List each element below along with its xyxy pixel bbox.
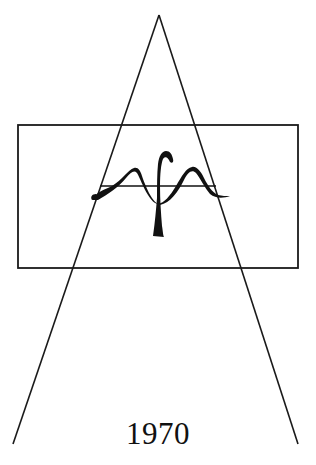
monogram-symbol-icon — [91, 151, 230, 237]
year-label: 1970 — [0, 418, 316, 449]
emblem-graphic — [0, 0, 316, 465]
